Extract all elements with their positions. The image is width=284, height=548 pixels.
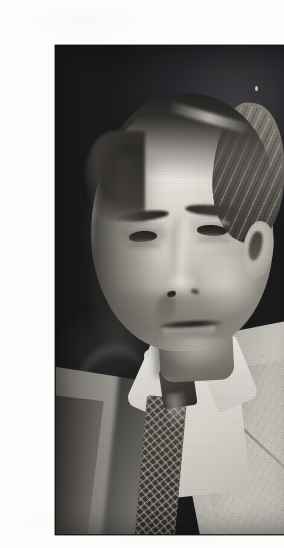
portrait-photograph bbox=[55, 45, 284, 535]
necktie-highlight bbox=[165, 392, 192, 429]
dust-speck-artifact bbox=[255, 86, 258, 91]
under-eye-right bbox=[195, 237, 231, 246]
scanned-page bbox=[0, 0, 284, 548]
face-shadow-lower bbox=[113, 293, 253, 363]
photo-caption bbox=[15, 524, 268, 538]
